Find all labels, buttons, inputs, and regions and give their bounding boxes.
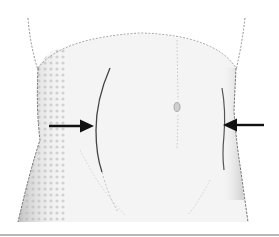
abdomen-illustration xyxy=(0,0,279,237)
bottom-divider xyxy=(0,234,279,236)
umbilicus xyxy=(174,103,180,112)
left-upper-contour xyxy=(28,18,38,70)
right-upper-contour xyxy=(236,18,245,70)
torso-drawing xyxy=(0,0,279,237)
